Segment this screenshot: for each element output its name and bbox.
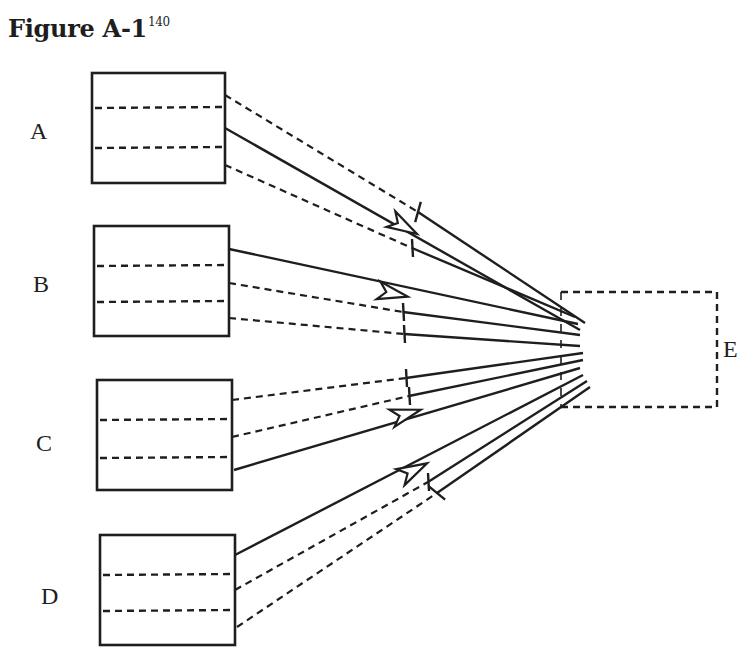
dashed-segment (225, 165, 412, 248)
solid-segment (404, 334, 580, 346)
source-box-c (97, 380, 232, 490)
tick-mark-icon (409, 387, 410, 405)
connection-b-5 (229, 318, 580, 346)
tick-mark-icon (403, 303, 404, 321)
box-divider-dashed (103, 574, 233, 575)
connection-lines (225, 95, 590, 627)
arrowhead-icon (396, 463, 427, 485)
box-divider-dashed (95, 147, 223, 148)
box-divider-dashed (95, 107, 223, 108)
dashed-segment (232, 378, 406, 400)
flow-diagram (0, 0, 755, 664)
box-outline (92, 73, 225, 183)
dashed-segment (235, 482, 428, 590)
connection-a-0 (225, 95, 585, 323)
connection-a-1 (225, 128, 580, 330)
box-outline (97, 380, 232, 490)
box-divider-dashed (100, 419, 230, 420)
box-divider-dashed (97, 301, 227, 302)
box-outline (100, 535, 235, 645)
dashed-segment (237, 493, 437, 627)
box-divider-dashed (103, 610, 233, 611)
connection-c-6 (232, 353, 583, 400)
source-boxes (92, 73, 235, 645)
box-divider-dashed (97, 265, 227, 266)
tick-mark-icon (412, 239, 413, 257)
connection-d-11 (237, 387, 590, 627)
dashed-segment (232, 396, 409, 437)
box-outline (94, 226, 229, 336)
tick-mark-icon (406, 369, 407, 387)
solid-segment (428, 381, 587, 482)
box-divider-dashed (100, 457, 230, 458)
dashed-segment (229, 318, 404, 334)
dashed-segment (229, 283, 403, 312)
source-box-b (94, 226, 229, 336)
tick-mark-icon (428, 473, 429, 491)
dashed-segment (225, 95, 418, 212)
source-box-d (100, 535, 235, 645)
arrowhead-icon (389, 410, 420, 427)
source-box-a (92, 73, 225, 183)
tick-mark-icon (404, 325, 405, 343)
connection-c-7 (232, 360, 583, 437)
